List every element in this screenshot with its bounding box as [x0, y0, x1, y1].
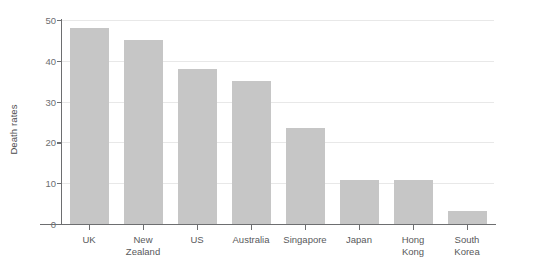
x-axis-category-label: Japan [332, 234, 386, 246]
bar [394, 180, 433, 224]
y-axis-tick-label: 40 [18, 55, 56, 66]
y-axis-tick-label: 50 [18, 15, 56, 26]
x-axis-tick [413, 225, 414, 230]
x-axis-category-label: SouthKorea [440, 234, 494, 257]
bar [70, 28, 109, 224]
bar [448, 211, 487, 224]
bar [340, 180, 379, 224]
y-axis-tick [57, 224, 61, 225]
bar [124, 40, 163, 224]
x-axis-category-label: Australia [224, 234, 278, 246]
x-axis-category-label: Singapore [278, 234, 332, 246]
x-axis-category-label-line: Kong [386, 246, 440, 258]
y-axis-tick [57, 183, 61, 184]
x-axis-tick [305, 225, 306, 230]
y-axis-tick [57, 61, 61, 62]
x-axis-tick [89, 225, 90, 230]
x-axis-tick [467, 225, 468, 230]
x-axis-line [40, 224, 496, 225]
y-axis-ticks: 01020304050 [0, 0, 56, 273]
x-axis-tick [197, 225, 198, 230]
x-axis-tick [359, 225, 360, 230]
y-axis-tick-label: 10 [18, 178, 56, 189]
bar [178, 69, 217, 224]
x-axis-category-label: HongKong [386, 234, 440, 257]
y-axis-tick-label: 20 [18, 137, 56, 148]
y-axis-tick [57, 102, 61, 103]
y-axis-tick-label: 30 [18, 96, 56, 107]
x-axis-category-label: US [170, 234, 224, 246]
x-axis-category-label: NewZealand [116, 234, 170, 257]
x-axis-category-label-line: Korea [440, 246, 494, 258]
x-axis-tick [251, 225, 252, 230]
x-axis-tick [143, 225, 144, 230]
bar-chart: Death rates 01020304050 UKNewZealandUSAu… [0, 0, 537, 273]
x-axis-category-label-line: Zealand [116, 246, 170, 258]
x-axis-category-label: UK [62, 234, 116, 246]
gridline [62, 20, 494, 21]
bar [286, 128, 325, 224]
y-axis-tick [57, 142, 61, 143]
bar [232, 81, 271, 224]
y-axis-tick [57, 20, 61, 21]
plot-area [62, 20, 494, 224]
